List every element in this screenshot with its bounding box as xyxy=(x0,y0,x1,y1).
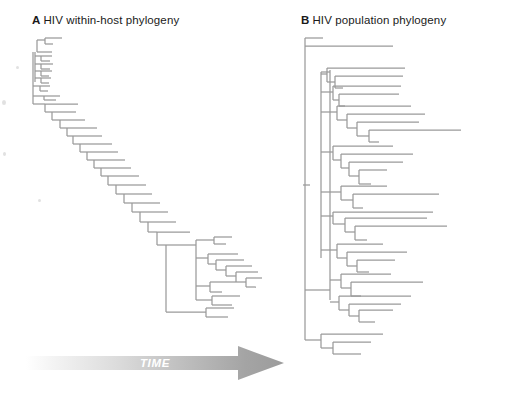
population-phylogeny-tree xyxy=(275,0,515,411)
time-axis-arrow-a: TIME xyxy=(26,343,284,383)
panel-b: BHIV population phylogeny xyxy=(275,0,515,411)
figure-canvas: AHIV within-host phylogeny xyxy=(0,0,515,411)
panel-a: AHIV within-host phylogeny xyxy=(0,0,275,411)
time-arrow-a-graphic xyxy=(26,343,284,383)
